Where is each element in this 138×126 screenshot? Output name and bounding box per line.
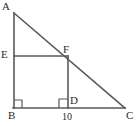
vertex-label-a: A <box>2 1 10 12</box>
measure-label-bd: 10 <box>62 112 72 122</box>
geometry-figure: A E F B D C 10 <box>0 0 138 126</box>
triangle-outline <box>13 13 125 108</box>
vertex-label-f: F <box>63 44 69 55</box>
right-angle-at-D-icon <box>59 99 68 108</box>
geometry-canvas <box>0 0 138 126</box>
vertex-label-e: E <box>1 49 8 60</box>
right-angle-at-B-icon <box>14 100 22 108</box>
vertex-label-b: B <box>8 110 15 121</box>
right-angle-marks <box>14 99 68 108</box>
vertex-label-d: D <box>70 95 78 106</box>
vertex-label-c: C <box>126 110 133 121</box>
